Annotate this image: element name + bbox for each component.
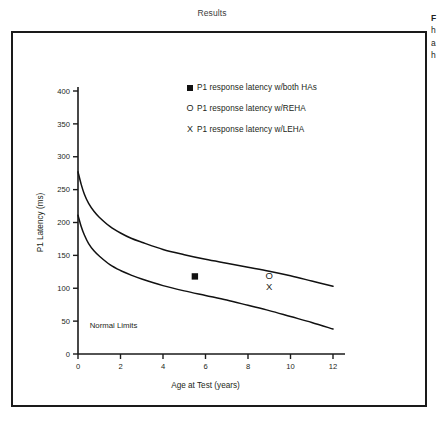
figure-page: Results F h a h 050100150200250300350400… xyxy=(0,0,440,422)
legend-item-both-has: P1 response latency w/both HAs xyxy=(183,77,383,98)
data-marker-filled-square xyxy=(192,273,198,279)
x-tick-label: 6 xyxy=(203,362,207,371)
caption-line-4: h xyxy=(431,49,440,61)
legend-label-leha: P1 response latency w/LEHA xyxy=(197,125,304,134)
y-tick-label: 150 xyxy=(57,251,70,260)
y-tick-label: 300 xyxy=(57,152,70,161)
x-tick-label: 12 xyxy=(329,362,337,371)
x-tick-label: 10 xyxy=(286,362,294,371)
x-tick-label: 4 xyxy=(161,362,165,371)
y-tick-label: 400 xyxy=(57,87,70,96)
y-tick-label: 50 xyxy=(62,317,70,326)
legend-item-reha: O P1 response latency w/REHA xyxy=(183,98,383,119)
legend-label-reha: P1 response latency w/REHA xyxy=(197,104,306,113)
chart-legend: P1 response latency w/both HAs O P1 resp… xyxy=(183,77,383,140)
annotation-normal-limits: Normal Limits xyxy=(90,321,138,330)
normal-limit-curve-1 xyxy=(78,215,333,329)
y-tick-label: 100 xyxy=(57,284,70,293)
cross-icon: X xyxy=(183,125,197,134)
x-tick-label: 0 xyxy=(76,362,80,371)
y-tick-label: 350 xyxy=(57,120,70,129)
caption-line-3: a xyxy=(431,37,440,49)
y-tick-label: 250 xyxy=(57,185,70,194)
legend-item-leha: X P1 response latency w/LEHA xyxy=(183,119,383,140)
filled-square-icon xyxy=(183,85,197,91)
section-heading: Results xyxy=(0,8,424,18)
y-axis-title: P1 Latency (ms) xyxy=(36,192,45,252)
figure-caption-column: F h a h xyxy=(431,12,440,62)
figure-frame: 050100150200250300350400024681012Age at … xyxy=(11,31,427,407)
x-tick-label: 8 xyxy=(246,362,250,371)
x-axis-title: Age at Test (years) xyxy=(171,381,240,390)
data-marker-open-circle: O xyxy=(266,270,273,281)
data-marker-cross: X xyxy=(266,281,273,292)
open-circle-icon: O xyxy=(183,104,197,113)
y-tick-label: 0 xyxy=(66,350,70,359)
x-tick-label: 2 xyxy=(118,362,122,371)
y-tick-label: 200 xyxy=(57,218,70,227)
caption-line-1: F xyxy=(431,12,440,24)
caption-line-2: h xyxy=(431,24,440,36)
legend-label-both-has: P1 response latency w/both HAs xyxy=(197,83,317,92)
